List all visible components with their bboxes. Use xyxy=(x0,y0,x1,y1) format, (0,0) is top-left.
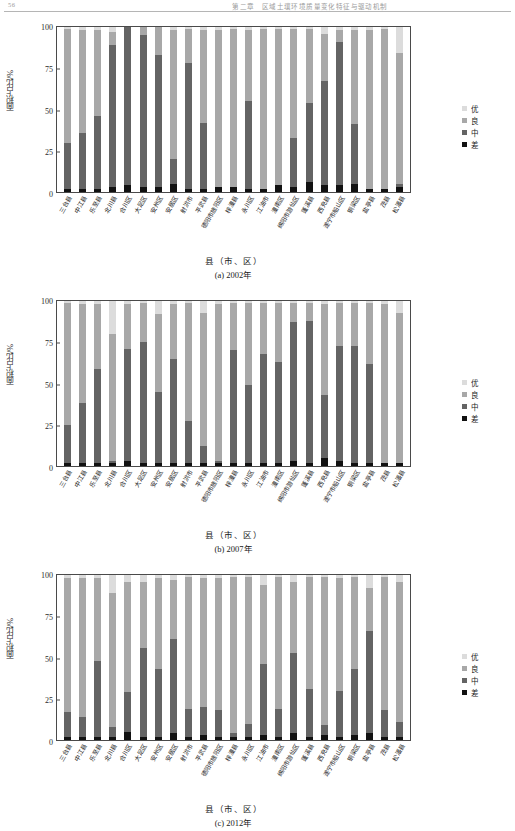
stacked-bar[interactable] xyxy=(79,575,86,740)
bar-column[interactable] xyxy=(166,27,181,192)
bar-column[interactable] xyxy=(362,575,377,740)
bar-column[interactable] xyxy=(75,575,90,740)
stacked-bar[interactable] xyxy=(109,301,116,466)
stacked-bar[interactable] xyxy=(336,27,343,192)
stacked-bar[interactable] xyxy=(94,575,101,740)
stacked-bar[interactable] xyxy=(290,27,297,192)
bar-column[interactable] xyxy=(181,27,196,192)
stacked-bar[interactable] xyxy=(64,575,71,740)
stacked-bar[interactable] xyxy=(109,27,116,192)
stacked-bar[interactable] xyxy=(396,301,403,466)
bar-column[interactable] xyxy=(120,27,135,192)
bar-column[interactable] xyxy=(241,575,256,740)
bar-column[interactable] xyxy=(135,301,150,466)
bar-column[interactable] xyxy=(377,27,392,192)
bar-column[interactable] xyxy=(105,27,120,192)
bar-column[interactable] xyxy=(211,27,226,192)
bar-column[interactable] xyxy=(256,575,271,740)
bar-column[interactable] xyxy=(317,301,332,466)
stacked-bar[interactable] xyxy=(306,301,313,466)
legend-item[interactable]: 中 xyxy=(462,674,506,686)
stacked-bar[interactable] xyxy=(155,301,162,466)
bar-column[interactable] xyxy=(120,575,135,740)
bar-column[interactable] xyxy=(392,575,407,740)
stacked-bar[interactable] xyxy=(321,301,328,466)
bar-column[interactable] xyxy=(286,575,301,740)
stacked-bar[interactable] xyxy=(155,575,162,740)
stacked-bar[interactable] xyxy=(275,27,282,192)
stacked-bar[interactable] xyxy=(79,27,86,192)
stacked-bar[interactable] xyxy=(109,575,116,740)
bar-column[interactable] xyxy=(166,301,181,466)
bar-column[interactable] xyxy=(302,27,317,192)
stacked-bar[interactable] xyxy=(381,575,388,740)
bar-column[interactable] xyxy=(90,301,105,466)
stacked-bar[interactable] xyxy=(260,575,267,740)
bar-column[interactable] xyxy=(347,575,362,740)
stacked-bar[interactable] xyxy=(306,575,313,740)
stacked-bar[interactable] xyxy=(94,301,101,466)
bar-column[interactable] xyxy=(120,301,135,466)
stacked-bar[interactable] xyxy=(381,27,388,192)
stacked-bar[interactable] xyxy=(94,27,101,192)
bar-column[interactable] xyxy=(241,301,256,466)
bar-column[interactable] xyxy=(332,575,347,740)
stacked-bar[interactable] xyxy=(200,27,207,192)
bar-column[interactable] xyxy=(151,301,166,466)
stacked-bar[interactable] xyxy=(170,575,177,740)
bar-column[interactable] xyxy=(211,575,226,740)
stacked-bar[interactable] xyxy=(140,27,147,192)
stacked-bar[interactable] xyxy=(230,27,237,192)
legend-item[interactable]: 差 xyxy=(462,686,506,698)
stacked-bar[interactable] xyxy=(215,575,222,740)
bar-column[interactable] xyxy=(347,301,362,466)
bar-column[interactable] xyxy=(302,301,317,466)
stacked-bar[interactable] xyxy=(124,575,131,740)
stacked-bar[interactable] xyxy=(351,575,358,740)
bar-column[interactable] xyxy=(302,575,317,740)
legend-item[interactable]: 良 xyxy=(462,114,506,126)
bar-column[interactable] xyxy=(211,301,226,466)
legend-item[interactable]: 差 xyxy=(462,412,506,424)
bar-column[interactable] xyxy=(196,575,211,740)
bar-column[interactable] xyxy=(166,575,181,740)
bar-column[interactable] xyxy=(226,27,241,192)
bar-column[interactable] xyxy=(317,27,332,192)
legend-item[interactable]: 良 xyxy=(462,662,506,674)
stacked-bar[interactable] xyxy=(185,575,192,740)
bar-column[interactable] xyxy=(151,27,166,192)
stacked-bar[interactable] xyxy=(200,575,207,740)
stacked-bar[interactable] xyxy=(290,301,297,466)
stacked-bar[interactable] xyxy=(64,27,71,192)
stacked-bar[interactable] xyxy=(230,301,237,466)
bar-column[interactable] xyxy=(226,575,241,740)
bar-column[interactable] xyxy=(196,301,211,466)
stacked-bar[interactable] xyxy=(140,575,147,740)
bar-column[interactable] xyxy=(90,575,105,740)
bar-column[interactable] xyxy=(105,301,120,466)
bar-column[interactable] xyxy=(135,575,150,740)
stacked-bar[interactable] xyxy=(155,27,162,192)
stacked-bar[interactable] xyxy=(396,27,403,192)
stacked-bar[interactable] xyxy=(351,301,358,466)
stacked-bar[interactable] xyxy=(245,301,252,466)
stacked-bar[interactable] xyxy=(260,27,267,192)
bar-column[interactable] xyxy=(151,575,166,740)
stacked-bar[interactable] xyxy=(215,301,222,466)
stacked-bar[interactable] xyxy=(321,575,328,740)
legend-item[interactable]: 中 xyxy=(462,126,506,138)
bar-column[interactable] xyxy=(256,301,271,466)
stacked-bar[interactable] xyxy=(275,301,282,466)
bar-column[interactable] xyxy=(347,27,362,192)
bar-column[interactable] xyxy=(75,301,90,466)
stacked-bar[interactable] xyxy=(230,575,237,740)
bar-column[interactable] xyxy=(362,301,377,466)
stacked-bar[interactable] xyxy=(170,27,177,192)
stacked-bar[interactable] xyxy=(79,301,86,466)
bar-column[interactable] xyxy=(271,301,286,466)
bar-column[interactable] xyxy=(135,27,150,192)
bar-column[interactable] xyxy=(332,27,347,192)
stacked-bar[interactable] xyxy=(290,575,297,740)
stacked-bar[interactable] xyxy=(336,575,343,740)
bar-column[interactable] xyxy=(90,27,105,192)
